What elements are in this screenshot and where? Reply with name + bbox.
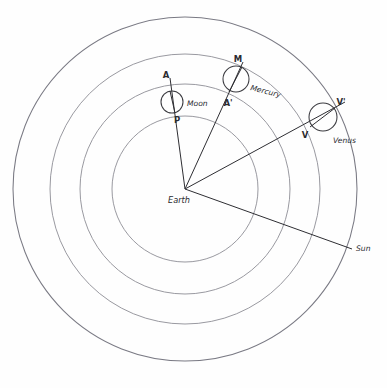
label-earth: Earth bbox=[168, 195, 190, 205]
venus-body bbox=[309, 103, 337, 131]
ray-to-moon bbox=[170, 78, 185, 189]
label-moon: Moon bbox=[187, 99, 208, 108]
label-mercury-perigee: A' bbox=[223, 98, 232, 108]
diagram-canvas: A P Moon M A' Mercury V' V Venus Earth S… bbox=[0, 0, 387, 388]
label-mercury-apogee: M bbox=[234, 54, 242, 64]
ray-to-sun bbox=[185, 189, 352, 249]
astronomy-diagram: A P Moon M A' Mercury V' V Venus Earth S… bbox=[0, 0, 387, 388]
label-moon-apogee: A bbox=[163, 70, 170, 80]
venus-apsis-line bbox=[310, 108, 335, 127]
label-venus-apogee: V' bbox=[336, 97, 345, 107]
mercury-body bbox=[223, 66, 249, 92]
label-mercury: Mercury bbox=[250, 83, 283, 99]
mercury-apsis-line bbox=[229, 67, 242, 92]
label-moon-perigee: P bbox=[174, 115, 180, 125]
label-venus-perigee: V bbox=[302, 130, 309, 140]
label-venus: Venus bbox=[333, 136, 356, 145]
ray-to-venus bbox=[185, 102, 345, 189]
label-sun: Sun bbox=[356, 244, 371, 253]
